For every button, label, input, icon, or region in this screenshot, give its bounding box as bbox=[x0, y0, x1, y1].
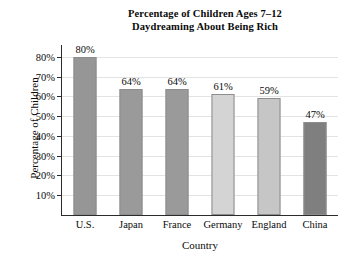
bar-group: 47%China bbox=[292, 47, 338, 215]
plot-area: 10%20%30%40%50%60%70%80% 80%U.S.64%Japan… bbox=[62, 47, 338, 215]
y-axis-tick-label: 30% bbox=[36, 150, 55, 161]
x-axis-category-label: U.S. bbox=[76, 219, 95, 230]
x-axis-line bbox=[61, 215, 338, 216]
x-axis-category-label: China bbox=[302, 219, 327, 230]
chart-title-line-2: Daydreaming About Being Rich bbox=[90, 21, 320, 34]
bars-layer: 80%U.S.64%Japan64%France61%Germany59%Eng… bbox=[62, 47, 338, 215]
bar-value-label: 47% bbox=[305, 109, 324, 120]
y-axis-tick-label: 20% bbox=[36, 170, 55, 181]
bar-group: 80%U.S. bbox=[62, 47, 108, 215]
y-axis-tick-label: 80% bbox=[36, 51, 55, 62]
bar-chart-figure: Percentage of Children Ages 7–12 Daydrea… bbox=[0, 0, 344, 272]
bar bbox=[166, 89, 189, 215]
x-axis-category-label: Japan bbox=[119, 219, 143, 230]
x-axis-category-label: France bbox=[163, 219, 192, 230]
bar-value-label: 64% bbox=[121, 76, 140, 87]
bar-value-label: 61% bbox=[213, 81, 232, 92]
bar-value-label: 59% bbox=[259, 85, 278, 96]
y-axis-tick-label: 40% bbox=[36, 130, 55, 141]
y-axis-tick-label: 50% bbox=[36, 111, 55, 122]
bar bbox=[74, 57, 97, 215]
x-axis-category-label: Germany bbox=[203, 219, 242, 230]
y-axis-tick-label: 60% bbox=[36, 91, 55, 102]
x-axis-category-label: England bbox=[252, 219, 287, 230]
y-axis-tick-label: 70% bbox=[36, 71, 55, 82]
y-axis-tick-label: 10% bbox=[36, 190, 55, 201]
bar-value-label: 64% bbox=[167, 76, 186, 87]
bar-group: 64%France bbox=[154, 47, 200, 215]
chart-title: Percentage of Children Ages 7–12 Daydrea… bbox=[90, 8, 320, 33]
bar-group: 59%England bbox=[246, 47, 292, 215]
bar-group: 64%Japan bbox=[108, 47, 154, 215]
bar-group: 61%Germany bbox=[200, 47, 246, 215]
bar bbox=[120, 89, 143, 215]
x-axis-title: Country bbox=[62, 239, 338, 251]
bar bbox=[258, 98, 281, 215]
bar bbox=[304, 122, 327, 215]
bar-value-label: 80% bbox=[75, 44, 94, 55]
bar bbox=[212, 94, 235, 215]
chart-title-line-1: Percentage of Children Ages 7–12 bbox=[90, 8, 320, 21]
